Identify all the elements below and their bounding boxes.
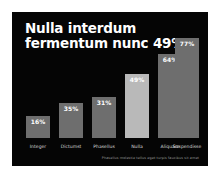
bar-phasellus[interactable]: 31%: [92, 97, 116, 138]
bar-nulla[interactable]: 49%: [125, 74, 149, 138]
bar-value-nulla: 49%: [125, 76, 149, 83]
bar-dictumst[interactable]: 35%: [59, 103, 83, 138]
bar-suspendisse[interactable]: 77%: [175, 38, 199, 138]
category-wrap-phasellus: Phasellus: [92, 140, 116, 150]
category-wrap-suspendisse: Suspendisse: [175, 140, 199, 150]
bar-value-suspendisse: 77%: [175, 40, 199, 47]
bar-value-integer: 16%: [26, 118, 50, 125]
bar-chart: 16% Integer 35% Dictumst 31%: [12, 12, 208, 166]
category-wrap-dictumst: Dictumst: [59, 140, 83, 150]
bar-value-dictumst: 35%: [59, 105, 83, 112]
category-wrap-nulla: Nulla: [125, 140, 149, 150]
bar-value-phasellus: 31%: [92, 99, 116, 106]
presentation-slide: Nulla interdum fermentum nunc 49% 16% In…: [12, 12, 208, 166]
category-wrap-integer: Integer: [26, 140, 50, 150]
category-label-suspendisse: Suspendisse: [166, 144, 208, 150]
slide-frame: Nulla interdum fermentum nunc 49% 16% In…: [0, 0, 222, 177]
bar-integer[interactable]: 16%: [26, 116, 50, 138]
footnote-text: Phasellus molestie tellus eget turpis fa…: [102, 156, 199, 161]
